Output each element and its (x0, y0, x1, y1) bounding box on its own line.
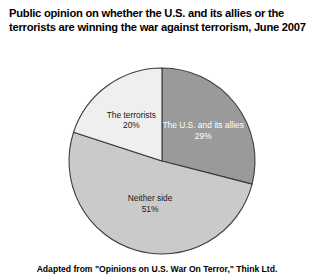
pie-slice-value-the-terrorists: 20% (123, 120, 140, 130)
pie-slice-value-the-us-and-its-allies: 29% (195, 131, 212, 141)
pie-slices-group (69, 68, 255, 254)
pie-slice-name-the-us-and-its-allies: The U.S. and its allies (162, 120, 243, 130)
pie-chart-svg: The U.S. and its allies29%Neither side51… (0, 0, 314, 274)
pie-chart-figure: Public opinion on whether the U.S. and i… (0, 0, 314, 274)
source-note: Adapted from "Opinions on U.S. War On Te… (0, 264, 314, 274)
pie-slice-name-neither-side: Neither side (128, 193, 173, 203)
pie-slice-value-neither-side: 51% (142, 204, 159, 214)
pie-chart: The U.S. and its allies29%Neither side51… (0, 0, 314, 274)
pie-slice-name-the-terrorists: The terrorists (107, 110, 156, 120)
